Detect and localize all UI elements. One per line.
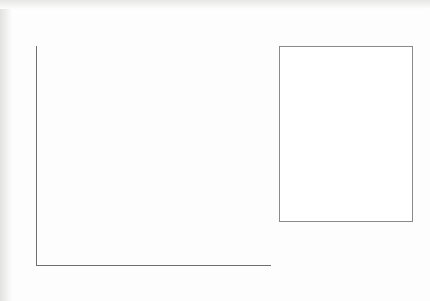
legend	[279, 46, 413, 222]
plot-area	[36, 46, 270, 266]
series-lines	[36, 46, 270, 266]
chart-page	[0, 0, 430, 301]
